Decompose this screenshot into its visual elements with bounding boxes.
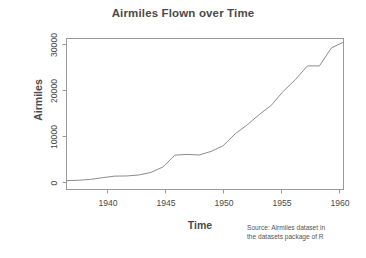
y-axis-title: Airmiles bbox=[32, 75, 44, 125]
x-axis-ticks bbox=[108, 190, 340, 194]
source-note-line1: Source: Airmiles dataset in bbox=[247, 223, 365, 232]
x-tick-label-1955: 1955 bbox=[262, 198, 302, 208]
x-tick-label-1945: 1945 bbox=[146, 198, 186, 208]
y-tick-label-10000: 10000 bbox=[49, 117, 59, 157]
x-tick-label-1960: 1960 bbox=[320, 198, 360, 208]
y-axis-ticks bbox=[63, 39, 67, 190]
x-axis-title: Time bbox=[150, 219, 250, 231]
x-tick-label-1950: 1950 bbox=[204, 198, 244, 208]
source-note-line2: the datasets package of R bbox=[247, 232, 365, 241]
chart-figure: Airmiles Flown over Time 0 10000 20000 3… bbox=[0, 0, 366, 258]
y-tick-label-30000: 30000 bbox=[49, 25, 59, 65]
data-series-airmiles bbox=[67, 42, 344, 180]
y-tick-label-0: 0 bbox=[49, 163, 59, 203]
source-note: Source: Airmiles dataset in the datasets… bbox=[247, 223, 365, 241]
x-tick-label-1940: 1940 bbox=[88, 198, 128, 208]
plot-box bbox=[67, 39, 344, 190]
y-tick-label-20000: 20000 bbox=[49, 71, 59, 111]
